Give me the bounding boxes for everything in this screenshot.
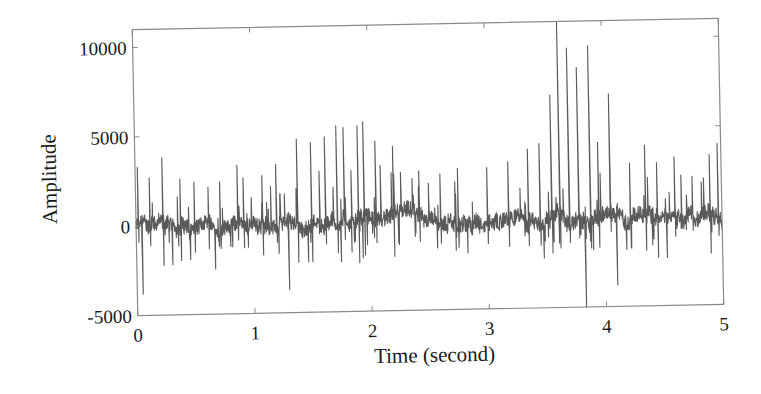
x-tick-label: 4	[602, 315, 612, 336]
y-tick-label: 10000	[79, 38, 127, 60]
x-tick-label: 5	[719, 313, 729, 334]
y-axis-ticks: -50000500010000	[79, 26, 724, 327]
plot-area	[132, 18, 723, 315]
y-axis-label: Amplitude	[36, 134, 62, 224]
rotated-figure-group: Amplitude 012345 -50000500010000 Time (s…	[34, 18, 729, 374]
x-tick-label: 2	[368, 320, 378, 341]
x-axis-ticks: 012345	[128, 18, 729, 345]
x-tick-label: 1	[250, 322, 260, 343]
y-tick-label: -5000	[87, 306, 132, 328]
signal-line	[132, 18, 723, 315]
y-tick-label: 5000	[90, 127, 128, 149]
x-tick-label: 3	[485, 318, 495, 339]
x-axis-label: Time (second)	[374, 342, 496, 368]
y-tick-label: 0	[120, 216, 130, 237]
plot-frame	[132, 18, 723, 315]
figure: Amplitude 012345 -50000500010000 Time (s…	[0, 0, 761, 394]
x-tick-label: 0	[133, 325, 143, 346]
